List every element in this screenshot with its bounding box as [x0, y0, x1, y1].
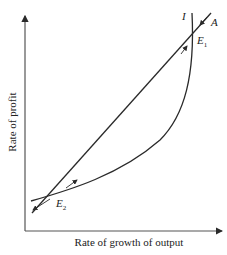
arrow-e1-from-above	[200, 17, 207, 25]
diagram-canvas: I A E1 E2 Rate of profit Rate of growth …	[0, 0, 227, 255]
line-a	[32, 13, 211, 213]
arrow-e1-from-below	[181, 46, 187, 54]
line-a-label: A	[210, 16, 218, 28]
x-axis-label: Rate of growth of output	[75, 236, 184, 248]
arrow-e2-downward	[33, 199, 50, 210]
y-axis-label: Rate of profit	[6, 92, 18, 151]
curve-i	[31, 13, 193, 201]
e1-label: E1	[196, 34, 208, 49]
e2-label: E2	[55, 197, 67, 212]
curve-i-label: I	[181, 10, 187, 22]
